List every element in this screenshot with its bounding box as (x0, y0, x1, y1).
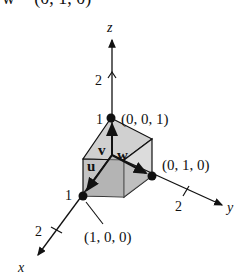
point-e1 (79, 192, 88, 201)
x-tick-1-label: 1 (65, 188, 72, 203)
point-e2 (148, 172, 157, 181)
point-e1-label: (1, 0, 0) (84, 229, 132, 246)
z-axis-label: z (106, 20, 113, 35)
x-axis-label: x (17, 260, 25, 275)
vector-v-label: v (98, 142, 106, 158)
unit-cube-diagram: w = (0, 1, 0) z 2 1 2 y 2 1 x v w u (0, … (0, 0, 249, 278)
vector-u-label: u (87, 158, 95, 174)
point-e1-leader (86, 202, 103, 224)
y-axis-label: y (225, 200, 234, 215)
z-tick-2-label: 2 (95, 73, 102, 88)
vector-w-label: w (117, 147, 128, 163)
point-e2-label: (0, 1, 0) (162, 157, 210, 174)
point-e3-label: (0, 0, 1) (121, 111, 169, 128)
x-tick-2 (51, 227, 62, 233)
y-tick-2-label: 2 (175, 199, 182, 214)
point-e3 (107, 114, 116, 123)
diagram-svg: w = (0, 1, 0) z 2 1 2 y 2 1 x v w u (0, … (0, 0, 249, 278)
x-tick-2-label: 2 (35, 224, 42, 239)
z-tick-1-label: 1 (96, 112, 103, 127)
header-crop-text: w = (0, 1, 0) (2, 0, 91, 9)
